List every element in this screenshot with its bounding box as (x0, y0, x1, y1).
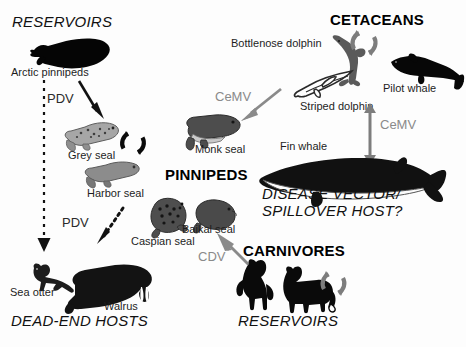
cycle-cetacean-icon (348, 27, 380, 59)
harbor-seal-label: Harbor seal (87, 188, 144, 199)
fin-whale-label: Fin whale (280, 141, 327, 152)
cycle-carnivore-icon (318, 268, 349, 299)
cemv-arrow-to-monk-seal (235, 86, 285, 126)
pdv-dotted-arrow (93, 206, 127, 248)
cycle-grey-seal-icon (118, 128, 148, 158)
sea-otter-label: Sea otter (10, 287, 55, 298)
pilot-whale-label: Pilot whale (383, 83, 436, 94)
dog-silhouette (233, 258, 281, 312)
pinnipeds-group-label: PINNIPEDS (165, 167, 248, 182)
walrus-label: Walrus (104, 301, 138, 312)
bottlenose-dolphin-label: Bottlenose dolphin (231, 38, 322, 49)
pdv-top-label: PDV (47, 92, 74, 105)
caspian-seal-label: Caspian seal (131, 236, 195, 247)
harbor-seal-silhouette (82, 158, 142, 190)
disease-vector-line1: DISEASE VECTOR/ (262, 186, 401, 201)
striped-dolphin-silhouette (292, 68, 358, 102)
transmission-diagram: RESERVOIRS Arctic pinnipeds PDV (0, 0, 466, 347)
arctic-pinnipeds-label: Arctic pinnipeds (11, 67, 89, 78)
pdv-bottom-label: PDV (62, 216, 89, 229)
disease-vector-line2: SPILLOVER HOST? (262, 203, 403, 218)
monk-seal-label: Monk seal (195, 144, 245, 155)
cemv-right-label: CeMV (380, 118, 416, 131)
reservoirs-top-label: RESERVOIRS (12, 14, 112, 29)
reservoirs-bottom-label: RESERVOIRS (238, 313, 338, 328)
dead-end-hosts-label: DEAD-END HOSTS (11, 313, 148, 328)
dashed-arrow-to-dead-end-hosts (34, 80, 54, 255)
cetaceans-group-label: CETACEANS (330, 12, 424, 27)
